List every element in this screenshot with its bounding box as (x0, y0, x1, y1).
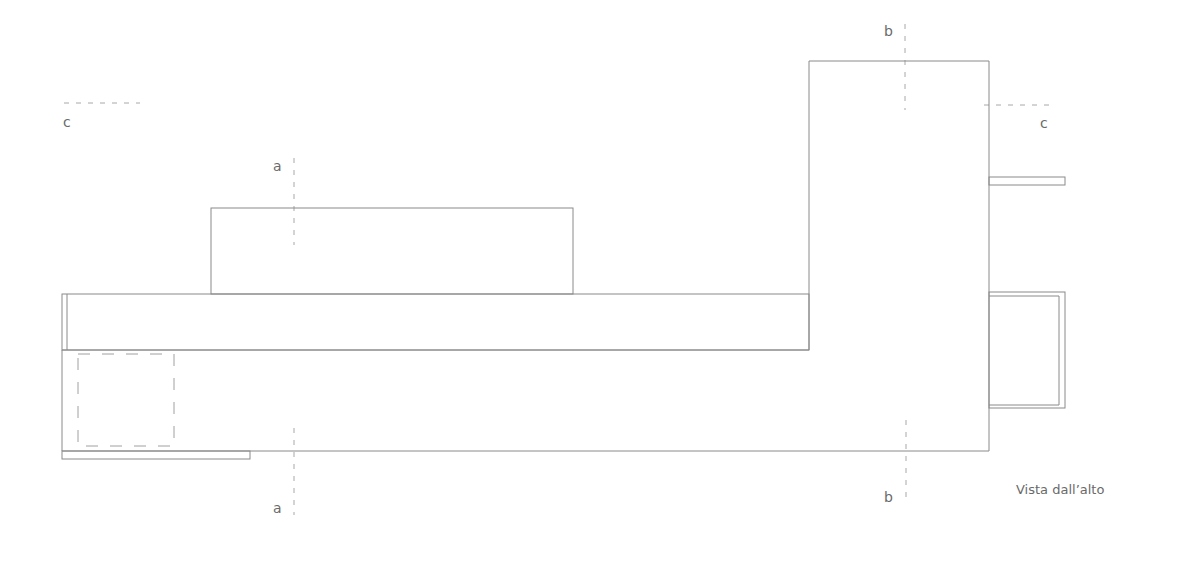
l-shaped-main-body (62, 61, 989, 451)
bottom-plinth-strip (62, 451, 250, 459)
section-line-c-left: c (63, 103, 140, 130)
right-small-bar (989, 177, 1065, 185)
section-line-a: a a (273, 158, 294, 516)
section-label-a-top: a (273, 158, 282, 174)
section-line-b: b b (884, 23, 906, 505)
section-label-c-left: c (63, 114, 71, 130)
upper-bench (62, 294, 809, 350)
top-view-plan-drawing: c c a a b b Vista dall’alto (0, 0, 1184, 561)
right-side-box (989, 292, 1065, 408)
section-label-b-top: b (884, 23, 893, 39)
hidden-square-outline (78, 354, 174, 446)
section-label-c-right: c (1040, 115, 1048, 131)
section-label-b-bottom: b (884, 489, 893, 505)
raised-block (211, 208, 573, 294)
section-label-a-bottom: a (273, 500, 282, 516)
view-caption: Vista dall’alto (1016, 482, 1104, 497)
section-line-c-right: c (984, 105, 1055, 131)
